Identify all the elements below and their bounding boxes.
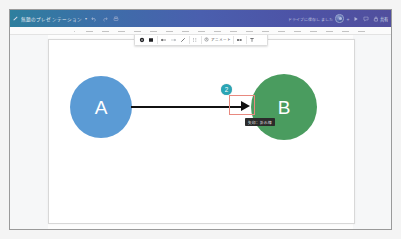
present-icon[interactable] (352, 15, 360, 23)
shape-format-toolbar: アニメート (134, 35, 268, 46)
ruler-tick (294, 31, 301, 32)
lock-icon (373, 16, 379, 22)
ruler-tick (150, 31, 157, 32)
header-left-group: 無題のプレゼンテーション ▾ (13, 15, 120, 23)
slide-work-area: アニメート A B (10, 35, 391, 230)
filled-circle-tool[interactable] (137, 35, 147, 45)
left-gutter (10, 35, 48, 230)
ruler-tick (102, 31, 109, 32)
ruler-tick (262, 31, 269, 32)
ruler-tick (326, 31, 333, 32)
line-dash-tool[interactable] (190, 35, 200, 45)
element-tooltip: 矢印：折れ線 (245, 118, 275, 126)
fill-color-tool[interactable] (147, 35, 157, 45)
slide-canvas[interactable]: A B 2 矢印：折れ線 (48, 39, 355, 224)
application-window: 無題のプレゼンテーション ▾ (9, 9, 392, 230)
line-style-tool[interactable] (178, 35, 188, 45)
header-right-group: ドライブに保存しました + 共有 (288, 10, 388, 27)
ruler-tick (86, 31, 93, 32)
step-badge[interactable]: 2 (221, 84, 232, 95)
ruler-tick (358, 31, 365, 32)
ruler-tick (230, 31, 237, 32)
ruler-tick (182, 31, 189, 32)
selection-rectangle[interactable] (229, 95, 255, 115)
save-status-text: ドライブに保存しました (288, 16, 333, 22)
comment-icon[interactable] (362, 15, 370, 23)
chevron-down-icon[interactable]: ▾ (85, 17, 87, 21)
ruler-tick (246, 31, 253, 32)
toolbar-divider (201, 36, 202, 44)
shape-node-a[interactable]: A (70, 76, 132, 138)
text-tool[interactable] (248, 35, 258, 45)
share-label: 共有 (380, 16, 388, 22)
ruler-tick (118, 31, 125, 32)
toolbar-divider (246, 36, 247, 44)
more-options-tool[interactable] (235, 35, 245, 45)
redo-icon[interactable] (101, 15, 109, 23)
shape-node-b[interactable]: B (251, 74, 317, 140)
arrow-connector-line[interactable] (131, 106, 243, 108)
animate-tool[interactable]: アニメート (203, 35, 232, 45)
app-header-bar: 無題のプレゼンテーション ▾ (10, 10, 391, 27)
print-icon[interactable] (112, 15, 120, 23)
ruler-tick (278, 31, 285, 32)
ruler-tick (74, 31, 75, 32)
toolbar-divider (189, 36, 190, 44)
line-end-arrow-tool[interactable] (168, 35, 178, 45)
ruler-tick (310, 31, 317, 32)
right-gutter (353, 35, 391, 230)
animate-icon (204, 37, 209, 42)
ruler-track (10, 31, 391, 33)
toolbar-divider (233, 36, 234, 44)
ruler-tick (214, 31, 221, 32)
horizontal-ruler[interactable] (10, 27, 391, 35)
pencil-icon (13, 16, 18, 21)
ruler-tick (134, 31, 141, 32)
node-a-label: A (95, 98, 108, 117)
ruler-tick (342, 31, 349, 32)
app-root: 無題のプレゼンテーション ▾ (0, 0, 401, 239)
animate-label: アニメート (211, 37, 231, 42)
ruler-tick (198, 31, 205, 32)
line-start-arrow-tool[interactable] (159, 35, 169, 45)
node-b-label: B (278, 98, 291, 117)
ruler-tick (166, 31, 173, 32)
share-button[interactable]: 共有 (373, 16, 388, 22)
add-person-icon[interactable]: + (346, 16, 349, 22)
toolbar-divider (157, 36, 158, 44)
document-title[interactable]: 無題のプレゼンテーション (21, 16, 82, 22)
account-avatar[interactable] (335, 14, 344, 23)
undo-icon[interactable] (90, 15, 98, 23)
